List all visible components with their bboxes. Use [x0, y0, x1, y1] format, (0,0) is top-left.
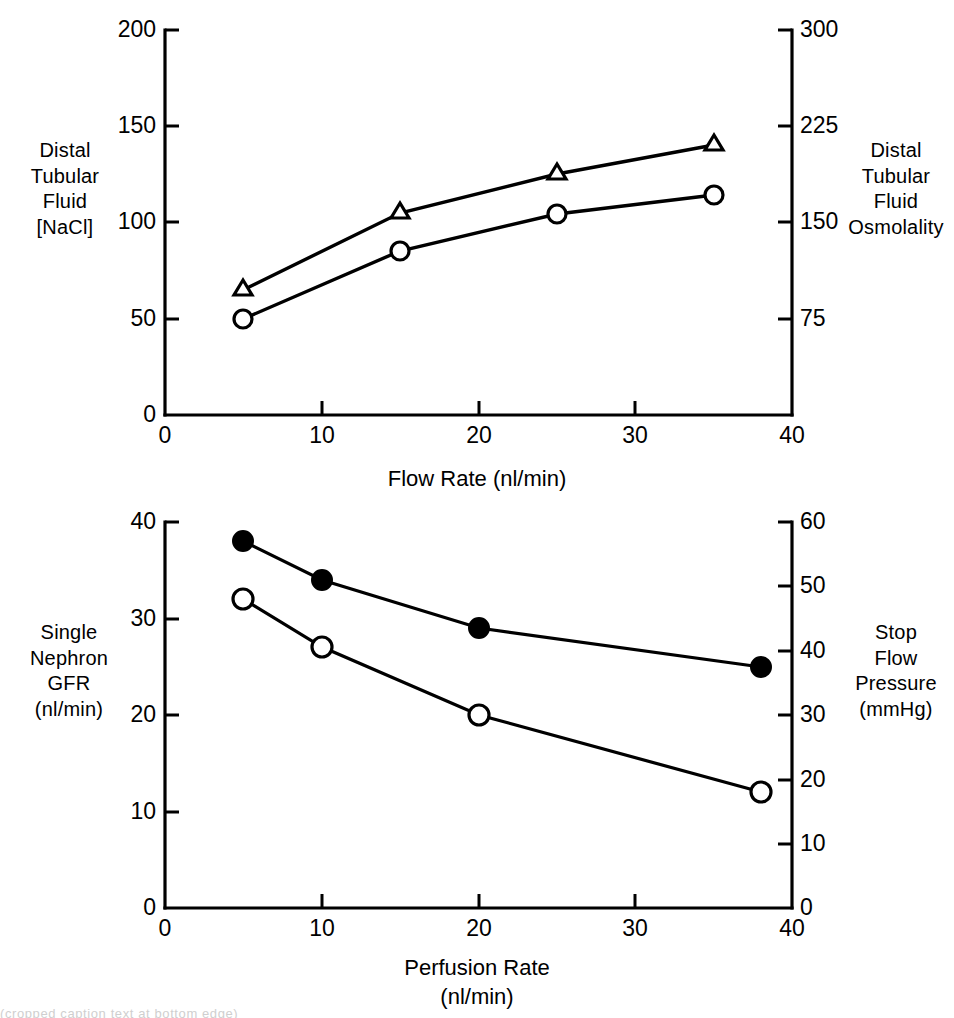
top-xtick-label-10: 10 [282, 424, 362, 447]
chart-panel-top: 200 150 100 50 0 300 225 150 75 0 10 20 … [0, 0, 954, 500]
top-xtick-label-40: 40 [752, 424, 832, 447]
top-ytick-label-150: 150 [60, 114, 156, 137]
top-ytick-label-200: 200 [60, 18, 156, 41]
bottom-y2tick-label-60: 60 [800, 510, 900, 533]
data-point-filled-circle [469, 618, 489, 638]
bottom-y2tick-label-20: 20 [800, 768, 900, 791]
figure-root: 200 150 100 50 0 300 225 150 75 0 10 20 … [0, 0, 954, 1018]
bottom-right-axis-title: Stop Flow Pressure (mmHg) [838, 620, 954, 722]
bottom-left-ticks [165, 522, 179, 812]
bottom-y2tick-label-10: 10 [800, 832, 900, 855]
cropped-caption-text: (cropped caption text at bottom edge) [0, 1006, 954, 1018]
data-point-filled-circle [233, 531, 253, 551]
data-point-circle [705, 186, 723, 204]
top-series-osmolality [234, 135, 723, 295]
bottom-right-ticks [778, 522, 792, 844]
top-right-axis-title: Distal Tubular Fluid Osmolality [838, 138, 954, 240]
top-xtick-label-20: 20 [439, 424, 519, 447]
bottom-xtick-label-30: 30 [595, 917, 675, 940]
bottom-xtick-label-20: 20 [439, 917, 519, 940]
top-y2tick-label-75: 75 [800, 307, 900, 330]
bottom-ytick-label-40: 40 [60, 510, 156, 533]
top-x-ticks [322, 401, 635, 415]
top-y2tick-label-225: 225 [800, 114, 900, 137]
top-right-ticks [778, 30, 792, 319]
bottom-y2tick-label-50: 50 [800, 574, 900, 597]
bottom-left-axis-title: Single Nephron GFR (nl/min) [4, 620, 134, 722]
bottom-ytick-label-0: 0 [60, 896, 156, 919]
data-point-circle [751, 782, 771, 802]
data-point-circle [548, 205, 566, 223]
data-point-circle [233, 589, 253, 609]
bottom-xtick-label-10: 10 [282, 917, 362, 940]
top-ytick-label-50: 50 [60, 307, 156, 330]
data-point-filled-circle [312, 570, 332, 590]
bottom-ytick-label-10: 10 [60, 800, 156, 823]
data-point-circle [312, 637, 332, 657]
bottom-x-ticks [322, 894, 635, 908]
top-left-axis-title: Distal Tubular Fluid [NaCl] [4, 138, 126, 240]
bottom-xtick-label-40: 40 [752, 917, 832, 940]
bottom-y2tick-label-0: 0 [800, 896, 900, 919]
data-point-triangle [391, 203, 409, 218]
data-point-circle [469, 705, 489, 725]
top-ytick-label-0: 0 [60, 403, 156, 426]
chart-panel-bottom: 40 30 20 10 0 60 50 40 30 20 10 0 0 10 2… [0, 492, 954, 1018]
data-point-circle [234, 310, 252, 328]
top-left-ticks [165, 30, 179, 319]
cropped-caption-strip: (cropped caption text at bottom edge) [0, 1006, 954, 1018]
data-point-triangle [548, 164, 566, 179]
data-point-circle [391, 242, 409, 260]
top-xtick-label-30: 30 [595, 424, 675, 447]
top-xtick-label-0: 0 [125, 424, 205, 447]
bottom-x-axis-title: Perfusion Rate (nl/min) [0, 954, 954, 1011]
bottom-series-sngfr [233, 589, 771, 802]
data-point-triangle [705, 135, 723, 150]
bottom-xtick-label-0: 0 [125, 917, 205, 940]
data-point-filled-circle [751, 657, 771, 677]
data-point-triangle [234, 280, 252, 295]
top-y2tick-label-300: 300 [800, 18, 900, 41]
top-x-axis-title: Flow Rate (nl/min) [0, 465, 954, 494]
